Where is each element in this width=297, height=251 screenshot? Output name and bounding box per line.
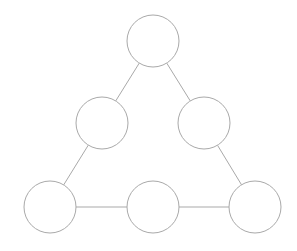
node-middle-right — [178, 97, 230, 149]
edge-top-to-middle-right — [167, 63, 191, 101]
node-bottom-right — [229, 181, 281, 233]
edge-middle-left-to-bottom-left — [64, 145, 89, 185]
edge-middle-right-to-bottom-right — [217, 145, 241, 185]
nodes-group — [24, 15, 281, 233]
node-bottom-middle — [127, 181, 179, 233]
edge-top-to-middle-left — [116, 63, 140, 101]
triangle-diagram — [0, 0, 297, 251]
node-middle-left — [76, 97, 128, 149]
node-bottom-left — [24, 181, 76, 233]
node-top — [127, 15, 179, 67]
